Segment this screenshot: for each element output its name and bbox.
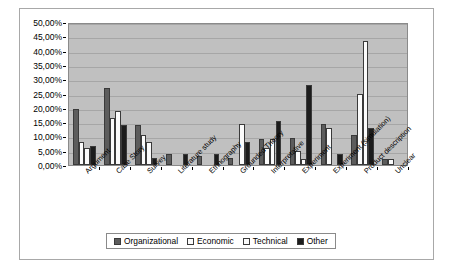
x-tick-mark: [346, 167, 347, 170]
legend-item[interactable]: Organizational: [114, 236, 178, 246]
y-tick-mark: [63, 23, 66, 24]
y-tick-label: 45,00%: [33, 33, 62, 42]
legend-label: Technical: [253, 236, 288, 246]
legend-swatch: [187, 238, 194, 245]
y-axis: 0,00%5,00%10,00%15,00%20,00%25,00%30,00%…: [20, 17, 66, 172]
x-axis-labels: ArgumentCase StorySurveyLiterature study…: [68, 167, 408, 229]
y-tick-label: 20,00%: [33, 104, 62, 113]
legend-label: Organizational: [124, 236, 178, 246]
y-tick-label: 25,00%: [33, 90, 62, 99]
legend-item[interactable]: Other: [297, 236, 328, 246]
y-tick-label: 40,00%: [33, 47, 62, 56]
y-tick-mark: [63, 52, 66, 53]
y-tick-mark: [63, 109, 66, 110]
x-tick-mark: [315, 167, 316, 170]
x-tick-mark: [161, 167, 162, 170]
x-tick-mark: [99, 167, 100, 170]
legend-label: Economic: [197, 236, 234, 246]
y-tick-label: 30,00%: [33, 76, 62, 85]
y-tick-mark: [63, 123, 66, 124]
x-tick-mark: [192, 167, 193, 170]
bar[interactable]: [388, 159, 394, 165]
legend-swatch: [243, 238, 250, 245]
bar-group: [73, 24, 95, 165]
x-tick-mark: [408, 167, 409, 170]
y-tick-label: 15,00%: [33, 119, 62, 128]
legend-swatch: [114, 238, 121, 245]
y-tick-mark: [63, 137, 66, 138]
x-tick-mark: [377, 167, 378, 170]
y-tick-mark: [63, 37, 66, 38]
legend-item[interactable]: Economic: [187, 236, 234, 246]
y-tick-mark: [63, 166, 66, 167]
bar-group: [104, 24, 126, 165]
y-tick-mark: [63, 95, 66, 96]
y-tick-label: 10,00%: [33, 133, 62, 142]
legend-label: Other: [307, 236, 328, 246]
legend-item[interactable]: Technical: [243, 236, 288, 246]
legend-swatch: [297, 238, 304, 245]
bar[interactable]: [306, 85, 312, 165]
y-tick-label: 50,00%: [33, 19, 62, 28]
chart-frame: 0,00%5,00%10,00%15,00%20,00%25,00%30,00%…: [19, 8, 434, 260]
x-tick-mark: [223, 167, 224, 170]
x-tick-mark: [253, 167, 254, 170]
y-tick-mark: [63, 80, 66, 81]
chart-legend: OrganizationalEconomicTechnicalOther: [106, 233, 336, 249]
x-tick-mark: [130, 167, 131, 170]
y-tick-label: 5,00%: [38, 147, 62, 156]
y-tick-label: 35,00%: [33, 61, 62, 70]
y-tick-mark: [63, 152, 66, 153]
x-tick-mark: [284, 167, 285, 170]
y-tick-mark: [63, 66, 66, 67]
bar-group: [166, 24, 188, 165]
y-tick-label: 0,00%: [38, 162, 62, 171]
